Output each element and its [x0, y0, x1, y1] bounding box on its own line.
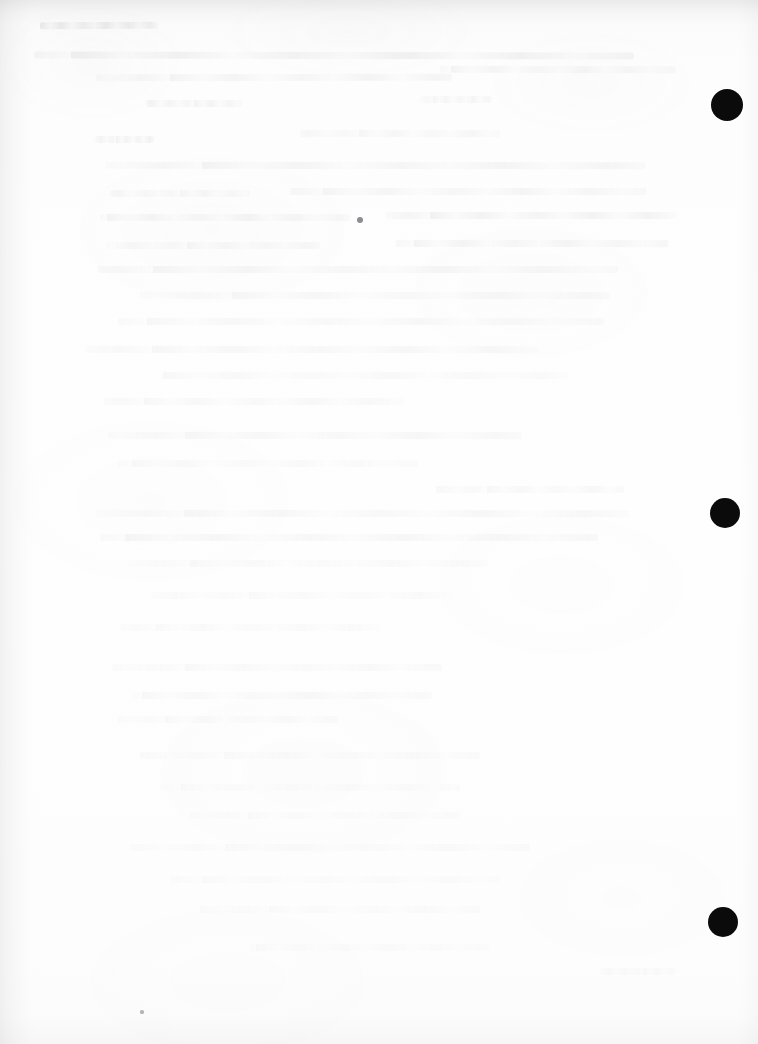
dust-speck [140, 1010, 143, 1013]
registration-mark-circle [711, 89, 743, 121]
scanned-page [0, 0, 758, 1044]
dust-speck [357, 217, 363, 223]
registration-mark-circle [708, 907, 738, 937]
paper-grain-texture [0, 0, 758, 1044]
scan-shadow-bottom [0, 1014, 758, 1044]
scan-shadow-top [0, 0, 758, 26]
registration-mark-circle [710, 498, 740, 528]
scan-shadow-right [738, 0, 758, 1044]
scan-shadow-left [0, 0, 34, 1044]
